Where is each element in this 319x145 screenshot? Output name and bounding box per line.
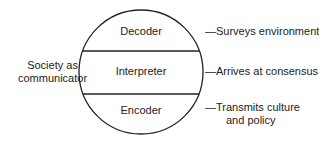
section-decoder-label: Decoder xyxy=(120,25,162,38)
encoder-description-line-2: and policy xyxy=(205,114,300,127)
left-label: Society as communicator xyxy=(18,59,87,85)
left-label-line-2: communicator xyxy=(18,72,87,85)
encoder-description-line-1: —Transmits culture xyxy=(205,101,300,114)
encoder-description: —Transmits culture and policy xyxy=(205,101,300,127)
decoder-description: —Surveys environment xyxy=(205,25,319,38)
section-encoder-label: Encoder xyxy=(121,104,162,117)
left-label-line-1: Society as xyxy=(18,59,87,72)
section-interpreter-label: Interpreter xyxy=(116,65,167,78)
interpreter-description: —Arrives at consensus xyxy=(205,65,318,78)
